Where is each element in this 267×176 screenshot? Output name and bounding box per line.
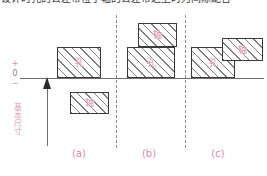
tolerance-box-c-shaft: 轴 <box>222 38 263 61</box>
top-caption-strip: 设计时孔的公差带位于轴的公差带之上时为间隙配合 <box>0 0 267 11</box>
figure-container: 设计时孔的公差带位于轴的公差带之上时为间隙配合 + 0 − 基本尺寸 孔 轴 轴… <box>0 0 267 176</box>
caption-text: 设计时孔的公差带位于轴的公差带之上时为间隙配合 <box>1 0 267 5</box>
basic-size-arrow-shaft <box>47 79 48 146</box>
scale-zero-mark: 0 <box>8 69 22 79</box>
tolerance-box-a-shaft: 轴 <box>70 92 109 114</box>
tolerance-box-label: 孔 <box>58 58 100 68</box>
scale-plus-mark: + <box>8 59 22 69</box>
tolerance-box-label: 轴 <box>139 30 176 40</box>
zero-datum-line <box>20 78 264 79</box>
basic-size-arrow-head-icon <box>43 77 51 89</box>
group-caption-a: (a) <box>59 148 99 160</box>
deviation-scale: + 0 − <box>8 59 22 89</box>
tolerance-box-b-shaft: 轴 <box>138 23 177 47</box>
diagram-canvas: + 0 − 基本尺寸 孔 轴 轴 孔 孔 轴 (a) (b) (c) <box>0 11 267 176</box>
tolerance-box-label: 孔 <box>128 58 174 68</box>
group-divider-2 <box>185 15 186 148</box>
tolerance-box-label: 轴 <box>71 98 108 108</box>
group-divider-1 <box>116 15 117 148</box>
tolerance-box-b-hole: 孔 <box>127 47 175 78</box>
basic-size-axis-label: 基本尺寸 <box>9 103 21 135</box>
tolerance-box-label: 轴 <box>223 45 262 55</box>
group-caption-c: (c) <box>198 148 238 160</box>
tolerance-box-a-hole: 孔 <box>57 47 101 78</box>
group-caption-b: (b) <box>129 148 169 160</box>
scale-minus-mark: − <box>8 79 22 89</box>
